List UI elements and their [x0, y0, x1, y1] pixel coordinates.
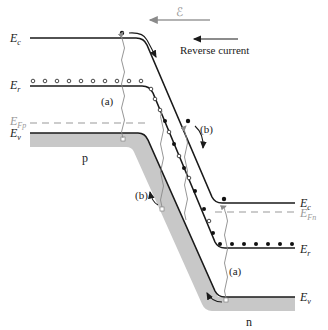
process-label-a-right: (a) [229, 266, 241, 277]
label-er-right: Er [300, 243, 310, 258]
reverse-current-label: Reverse current [180, 45, 249, 56]
label-ev-right: Ev [300, 291, 311, 306]
region-n-label: n [246, 316, 252, 328]
band-diagram [0, 0, 328, 330]
label-er-left: Er [10, 79, 20, 94]
label-ec-left: Ec [10, 32, 21, 47]
process-label-a-left: (a) [101, 96, 113, 107]
region-p-label: p [82, 152, 88, 164]
wavy-transition-arrows [122, 32, 228, 298]
process-label-b-lower: (b) [135, 190, 148, 201]
valence-band-fill [30, 133, 295, 311]
field-label: ℰ [176, 6, 183, 18]
process-label-b-upper: (b) [200, 124, 213, 135]
trap-level [30, 86, 295, 248]
label-efn-right: EFn [300, 207, 316, 222]
label-ev-left: Ev [10, 127, 21, 142]
empty-trap-circles [31, 79, 211, 223]
